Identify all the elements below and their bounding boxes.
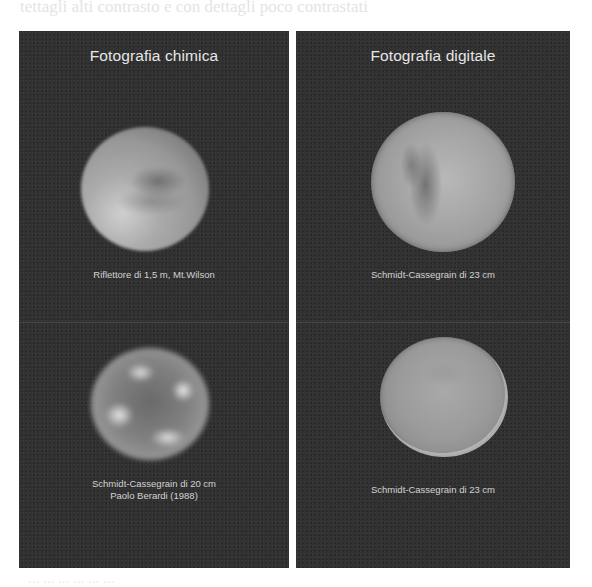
row-divider [296, 322, 570, 323]
row-divider [19, 322, 289, 323]
bleed-through-text-bottom: ... ... ... ... ... ... [28, 569, 568, 587]
mars-image-digital-top [371, 112, 515, 252]
caption: Schmidt-Cassegrain di 23 cm [296, 484, 570, 496]
bleed-through-text-top: tettagli alti contrasto e con dettagli p… [20, 0, 580, 16]
mars-image-mt-wilson [81, 127, 209, 251]
panel-digital-photography: Fotografia digitale Schmidt-Cassegrain d… [296, 31, 570, 568]
caption: Schmidt-Cassegrain di 20 cm [19, 478, 289, 490]
panel-title: Fotografia digitale [296, 47, 570, 65]
caption-credit: Paolo Berardi (1988) [19, 490, 289, 502]
caption: Riflettore di 1,5 m, Mt.Wilson [19, 269, 289, 281]
mars-image-digital-bottom [380, 337, 508, 457]
panel-title: Fotografia chimica [19, 47, 289, 65]
panel-chemical-photography: Fotografia chimica Riflettore di 1,5 m, … [19, 31, 289, 568]
caption: Schmidt-Cassegrain di 23 cm [296, 269, 570, 281]
mars-image-berardi-1988 [91, 348, 209, 460]
